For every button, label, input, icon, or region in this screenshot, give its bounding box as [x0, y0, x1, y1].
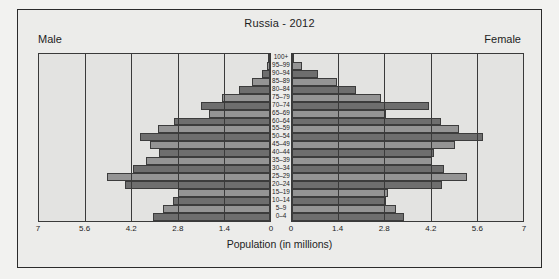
bar-row — [39, 157, 270, 165]
bar-row — [39, 149, 270, 157]
bar[interactable] — [292, 189, 388, 197]
gridline — [131, 54, 132, 221]
bar[interactable] — [153, 213, 270, 221]
age-group-label: 50–54 — [271, 132, 291, 140]
bar-row — [292, 141, 523, 149]
bar[interactable] — [267, 62, 270, 70]
gridline — [224, 54, 225, 221]
bar[interactable] — [292, 62, 302, 70]
bar[interactable] — [140, 133, 270, 141]
x-tick-label: 1.4 — [332, 224, 343, 233]
page-title: Russia - 2012 — [18, 17, 541, 29]
gridline — [384, 54, 385, 221]
age-group-label: 85–89 — [271, 77, 291, 85]
bar[interactable] — [146, 157, 270, 165]
bar[interactable] — [292, 205, 396, 213]
bar-row — [292, 118, 523, 126]
bar-row — [292, 205, 523, 213]
x-tick-label: 2.8 — [172, 224, 183, 233]
x-axis-label: Population (in millions) — [18, 238, 541, 250]
age-group-label: 65–69 — [271, 109, 291, 117]
x-tick-label: 5.6 — [79, 224, 90, 233]
age-group-label: 60–64 — [271, 117, 291, 125]
bar-row — [39, 181, 270, 189]
bar-row — [39, 54, 270, 62]
x-tick-label: 0 — [269, 224, 273, 233]
bar[interactable] — [222, 94, 270, 102]
gridline — [338, 54, 339, 221]
bar[interactable] — [201, 102, 270, 110]
bar[interactable] — [173, 197, 270, 205]
bar-row — [39, 78, 270, 86]
bar-row — [292, 62, 523, 70]
age-group-label: 95–99 — [271, 61, 291, 69]
x-tick-label: 4.2 — [425, 224, 436, 233]
bar-row — [39, 62, 270, 70]
bar-row — [292, 78, 523, 86]
bar[interactable] — [292, 102, 429, 110]
bar[interactable] — [292, 157, 432, 165]
female-x-axis-ticks: 01.42.84.25.67 — [291, 224, 524, 236]
age-group-label: 5–9 — [271, 204, 291, 212]
bar-row — [39, 94, 270, 102]
female-plot-panel — [291, 53, 524, 222]
bar-row — [39, 197, 270, 205]
bar[interactable] — [150, 141, 270, 149]
bar-row — [292, 213, 523, 221]
bar[interactable] — [292, 70, 318, 78]
bar-row — [39, 165, 270, 173]
bar-row — [292, 189, 523, 197]
age-group-label: 55–59 — [271, 124, 291, 132]
bar-row — [292, 86, 523, 94]
age-group-label: 100+ — [271, 53, 291, 61]
bar[interactable] — [268, 54, 270, 62]
bar[interactable] — [292, 54, 294, 62]
bar-row — [292, 157, 523, 165]
bar[interactable] — [292, 94, 381, 102]
bar[interactable] — [292, 118, 441, 126]
bar[interactable] — [292, 133, 483, 141]
bar-row — [39, 205, 270, 213]
bar[interactable] — [262, 70, 270, 78]
bar[interactable] — [292, 173, 467, 181]
bar-row — [39, 102, 270, 110]
bar[interactable] — [292, 181, 442, 189]
age-group-label: 35–39 — [271, 156, 291, 164]
bar[interactable] — [159, 149, 270, 157]
age-group-label: 45–49 — [271, 140, 291, 148]
age-group-label: 25–29 — [271, 172, 291, 180]
x-tick-label: 5.6 — [472, 224, 483, 233]
bar[interactable] — [239, 86, 270, 94]
age-group-axis: 100+95–9990–9485–8980–8475–7970–7465–696… — [271, 53, 291, 222]
bar[interactable] — [125, 181, 270, 189]
bar-row — [292, 94, 523, 102]
bar[interactable] — [292, 213, 404, 221]
x-tick-label: 4.2 — [126, 224, 137, 233]
bar-row — [39, 86, 270, 94]
bar-row — [39, 70, 270, 78]
bar[interactable] — [133, 165, 270, 173]
x-tick-label: 7 — [522, 224, 526, 233]
bar[interactable] — [252, 78, 270, 86]
bar-row — [39, 173, 270, 181]
population-pyramid-figure: Russia - 2012 Male Female 100+95–9990–94… — [17, 9, 542, 268]
bar[interactable] — [174, 118, 270, 126]
bar[interactable] — [158, 125, 270, 133]
age-group-label: 80–84 — [271, 85, 291, 93]
bar[interactable] — [292, 78, 337, 86]
bar[interactable] — [292, 165, 444, 173]
age-group-label: 20–24 — [271, 180, 291, 188]
bar[interactable] — [209, 110, 270, 118]
bar-row — [39, 118, 270, 126]
male-bar-group — [39, 54, 270, 221]
bar[interactable] — [163, 205, 270, 213]
bar[interactable] — [292, 125, 459, 133]
bar-row — [292, 102, 523, 110]
bar-row — [292, 70, 523, 78]
male-x-axis-ticks: 75.64.22.81.40 — [38, 224, 271, 236]
bar[interactable] — [292, 86, 356, 94]
age-group-label: 70–74 — [271, 101, 291, 109]
gridline — [85, 54, 86, 221]
gridline — [431, 54, 432, 221]
bar[interactable] — [292, 149, 434, 157]
